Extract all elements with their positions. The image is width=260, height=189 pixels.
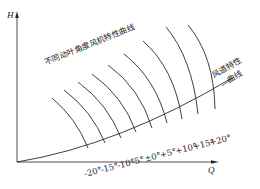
fan-system-characteristic-diagram: H Q -20° -15° -10° -5° ±0° +5° +10° +15°…	[0, 0, 260, 189]
fan-curves	[52, 25, 215, 148]
y-axis-label: H	[6, 10, 14, 20]
fan-curves-label: 不同动叶角度风机特性曲线	[43, 22, 136, 67]
fan-curve-plus-5	[124, 54, 167, 123]
fan-curve-plus-20	[188, 25, 215, 109]
fan-curve-plus-15	[166, 27, 198, 114]
fan-curve-minus-20	[52, 98, 88, 148]
x-axis-arrow-icon	[211, 160, 219, 164]
angle-label: +20°	[208, 132, 232, 147]
fan-curve-minus-10	[78, 82, 121, 138]
x-axis-label: Q	[208, 165, 215, 175]
y-axis-arrow-icon	[15, 11, 19, 18]
